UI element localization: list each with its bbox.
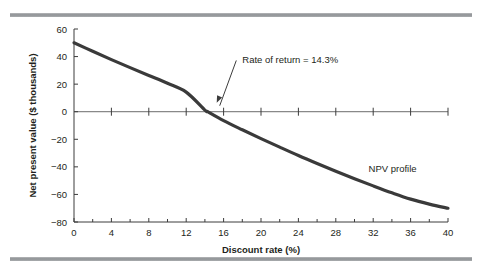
x-tick-label: 4 <box>109 227 114 238</box>
x-tick-label: 0 <box>71 227 76 238</box>
rate-of-return-leader <box>217 60 237 105</box>
y-tick-label: −20 <box>51 134 67 145</box>
y-axis-title: Net present value ($ thousands) <box>27 53 38 197</box>
npv-profile-curve <box>74 43 448 208</box>
x-tick-label: 20 <box>256 227 267 238</box>
y-tick-label: −40 <box>51 161 67 172</box>
y-tick-label: 40 <box>56 51 67 62</box>
x-tick-label: 16 <box>218 227 229 238</box>
x-tick-label: 12 <box>181 227 192 238</box>
npv-profile-series-label: NPV profile <box>369 163 417 174</box>
npv-profile-figure: 0481216202428323640 −80−60−40−200204060 … <box>0 0 491 271</box>
x-tick-label: 24 <box>293 227 304 238</box>
y-axis-ticks <box>74 29 78 222</box>
x-tick-label: 36 <box>405 227 416 238</box>
x-tick-label: 8 <box>146 227 151 238</box>
x-tick-label: 32 <box>368 227 379 238</box>
y-tick-label: −60 <box>51 189 67 200</box>
x-axis-title: Discount rate (%) <box>222 244 300 255</box>
y-axis-tick-labels: −80−60−40−200204060 <box>51 24 67 228</box>
y-tick-label: 0 <box>62 106 67 117</box>
y-tick-label: 20 <box>56 79 67 90</box>
rate-of-return-annotation-text: Rate of return = 14.3% <box>242 54 338 65</box>
x-tick-label: 28 <box>331 227 342 238</box>
annotation-leader-line <box>220 60 237 105</box>
y-tick-label: 60 <box>56 24 67 35</box>
x-tick-label: 40 <box>443 227 454 238</box>
x-axis-tick-labels: 0481216202428323640 <box>71 227 453 238</box>
npv-chart-svg: 0481216202428323640 −80−60−40−200204060 … <box>0 0 491 271</box>
y-tick-label: −80 <box>51 217 67 228</box>
